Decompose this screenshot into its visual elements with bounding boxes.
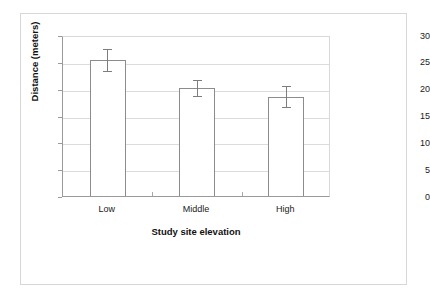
y-axis-tick-label: 5: [378, 166, 430, 175]
bar: [268, 97, 304, 196]
error-bar: [197, 80, 198, 96]
error-bar-cap-upper: [282, 86, 291, 87]
error-bar-cap-lower: [282, 107, 291, 108]
error-bar-cap-upper: [103, 49, 112, 50]
x-axis-tick-mark: [242, 192, 243, 196]
bar: [90, 60, 126, 196]
bar: [179, 88, 215, 196]
plot-area: [62, 36, 330, 197]
error-bar-cap-lower: [103, 71, 112, 72]
error-bar-cap-upper: [193, 80, 202, 81]
x-axis-title: Study site elevation: [62, 226, 330, 237]
y-axis-tick-label: 25: [378, 58, 430, 67]
y-axis-title: Distance (meters): [29, 0, 40, 127]
x-axis-tick-label: High: [241, 204, 330, 214]
y-axis-tick-label: 20: [378, 85, 430, 94]
y-axis-tick-label: 0: [378, 193, 430, 202]
bar-group: [90, 35, 126, 196]
x-axis-tick-mark: [152, 192, 153, 196]
x-axis-tick-label: Middle: [151, 204, 240, 214]
y-axis-tick-label: 15: [378, 112, 430, 121]
y-axis-tick-mark: [58, 197, 62, 198]
bar-group: [268, 35, 304, 196]
y-axis-tick-label: 30: [378, 32, 430, 41]
x-axis-tick-label: Low: [62, 204, 151, 214]
error-bar: [286, 86, 287, 107]
y-axis-tick-label: 10: [378, 139, 430, 148]
figure-root: Distance (meters) 051015202530 LowMiddle…: [0, 0, 430, 302]
bar-group: [179, 35, 215, 196]
error-bar: [107, 49, 108, 70]
error-bar-cap-lower: [193, 96, 202, 97]
